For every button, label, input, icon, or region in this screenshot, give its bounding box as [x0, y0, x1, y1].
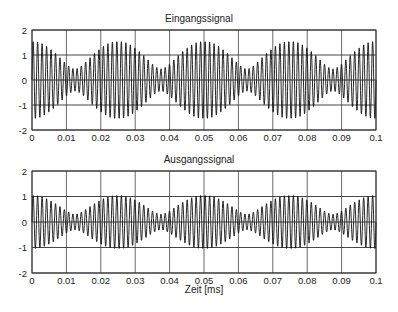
y-tick-label: -2 — [19, 268, 27, 279]
y-tick-label: 2 — [22, 25, 27, 36]
chart-canvas: 00.010.020.030.040.050.060.070.080.090.1… — [0, 0, 398, 312]
x-tick-label: 0.02 — [92, 132, 111, 143]
x-tick-label: 0.03 — [126, 275, 145, 286]
y-tick-label: -1 — [19, 242, 27, 253]
x-tick-label: 0.06 — [229, 275, 248, 286]
y-tick-label: 2 — [22, 166, 27, 177]
x-tick-label: 0.03 — [126, 132, 145, 143]
x-tick-label: 0.1 — [369, 132, 382, 143]
x-tick-label: 0.1 — [369, 275, 382, 286]
top-plot: 00.010.020.030.040.050.060.070.080.090.1… — [19, 25, 383, 144]
x-tick-label: 0.05 — [195, 132, 214, 143]
y-tick-label: -2 — [19, 125, 27, 136]
x-tick-label: 0.04 — [160, 132, 179, 143]
x-tick-label: 0 — [29, 132, 34, 143]
x-tick-label: 0.08 — [298, 275, 317, 286]
x-tick-label: 0.01 — [57, 275, 76, 286]
x-tick-label: 0.09 — [332, 132, 351, 143]
x-tick-label: 0.06 — [229, 132, 248, 143]
x-tick-label: 0.05 — [195, 275, 214, 286]
y-tick-label: 1 — [22, 191, 27, 202]
x-tick-label: 0.08 — [298, 132, 317, 143]
bottom-plot: 00.010.020.030.040.050.060.070.080.090.1… — [19, 166, 383, 287]
y-tick-label: 0 — [22, 75, 27, 86]
x-tick-label: 0.02 — [92, 275, 111, 286]
x-tick-label: 0.09 — [332, 275, 351, 286]
y-tick-label: 1 — [22, 50, 27, 61]
x-tick-label: 0.01 — [57, 132, 76, 143]
y-tick-label: -1 — [19, 100, 27, 111]
x-tick-label: 0.07 — [264, 275, 283, 286]
x-tick-label: 0 — [29, 275, 34, 286]
x-tick-label: 0.07 — [264, 132, 283, 143]
x-tick-label: 0.04 — [160, 275, 179, 286]
y-tick-label: 0 — [22, 217, 27, 228]
